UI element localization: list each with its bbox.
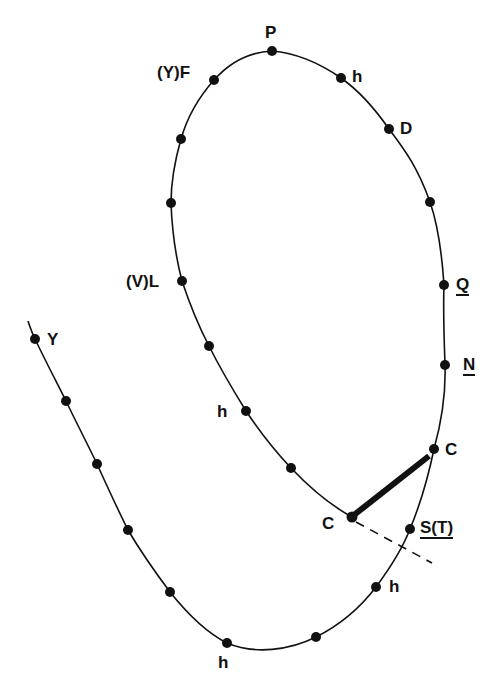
dot-h-inner: [241, 406, 251, 416]
label-V-L: (V)L: [126, 273, 159, 290]
tail-curve: [28, 321, 434, 650]
label-Y-F: (Y)F: [157, 64, 190, 81]
diagram-svg: [0, 0, 503, 689]
dot-h-top: [336, 73, 346, 83]
dot-h-lower-right: [371, 582, 381, 592]
dot-tail-2: [92, 459, 102, 469]
dot-Q: [439, 280, 449, 290]
dot-N: [440, 360, 450, 370]
label-Y-tail: Y: [47, 331, 58, 348]
diagram-canvas: P h D Q N C C S(T) h h h (V)L (Y)F Y: [0, 0, 503, 689]
dot-tail-1: [61, 396, 71, 406]
dot-left-lower-unlabeled: [204, 341, 214, 351]
dot-left-mid-unlabeled: [166, 198, 176, 208]
label-D: D: [400, 120, 412, 137]
dot-D: [384, 124, 394, 134]
label-C-upper: C: [445, 441, 457, 458]
dot-F: [209, 75, 219, 85]
label-S-T: S(T): [420, 519, 453, 539]
dot-C-upper: [429, 444, 439, 454]
dot-tail-3: [123, 525, 133, 535]
label-Q: Q: [456, 276, 469, 296]
dot-C-lower: [347, 512, 358, 523]
dot-left-upper-unlabeled: [176, 134, 186, 144]
dot-tail-4: [165, 587, 175, 597]
label-P: P: [265, 24, 276, 41]
label-h-inner: h: [217, 403, 227, 420]
label-N: N: [463, 356, 475, 376]
tail-dots: [30, 334, 415, 648]
dot-S-T: [405, 524, 415, 534]
dot-h-bottom: [222, 638, 232, 648]
dot-P: [267, 46, 277, 56]
dot-right-unlabeled: [425, 197, 435, 207]
loop-dots: [166, 46, 450, 523]
dot-L: [177, 276, 187, 286]
label-h-lower-right: h: [389, 578, 399, 595]
dot-Y: [30, 334, 40, 344]
dot-inner-unlabeled: [286, 463, 296, 473]
label-h-top: h: [352, 68, 362, 85]
label-h-bottom: h: [218, 654, 228, 671]
dot-tail-5: [311, 632, 321, 642]
thick-connector-bar: [354, 456, 429, 515]
label-C-lower: C: [322, 515, 334, 532]
